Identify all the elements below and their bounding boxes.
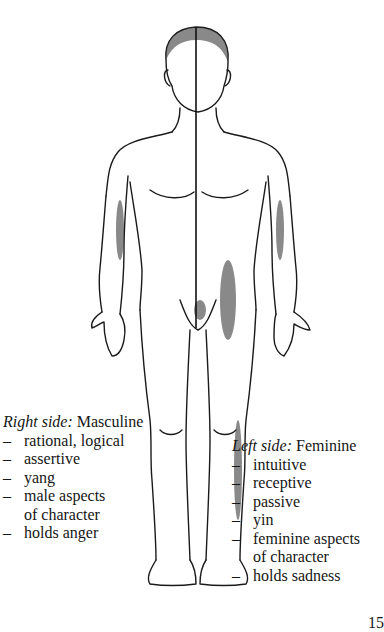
left-side-heading: Left side: Feminine [232,437,360,456]
list-item: –receptive [232,474,360,493]
list-item: –yang [3,469,143,488]
right-side-list: –rational, logical –assertive –yang –mal… [3,432,143,543]
right-side-heading: Right side: Masculine [3,413,143,432]
right-side-caption: Right side: Masculine –rational, logical… [3,413,143,543]
list-item: –intuitive [232,456,360,475]
list-item: –male aspects [3,487,143,506]
list-item-continuation: of character [3,506,143,525]
list-item-continuation: of character [232,548,360,567]
left-side-list: –intuitive –receptive –passive –yin –fem… [232,456,360,586]
left-side-caption: Left side: Feminine –intuitive –receptiv… [232,437,360,585]
list-item: –yin [232,511,360,530]
list-item: –feminine aspects [232,530,360,549]
list-item: –rational, logical [3,432,143,451]
list-item: –holds sadness [232,567,360,586]
list-item: –holds anger [3,524,143,543]
list-item: –passive [232,493,360,512]
list-item: –assertive [3,450,143,469]
page-number: 15 [368,614,384,632]
